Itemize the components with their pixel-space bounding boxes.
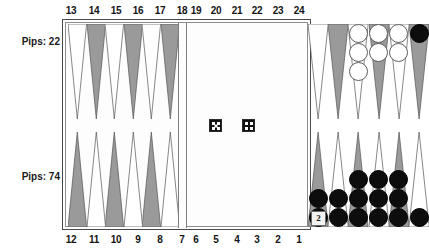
point-number-20: 20 bbox=[207, 4, 225, 18]
checker-black-point-5[interactable] bbox=[329, 189, 348, 208]
die-pip bbox=[245, 122, 248, 125]
point-number-24: 24 bbox=[290, 4, 308, 18]
point-19[interactable] bbox=[308, 24, 328, 119]
point-number-2: 2 bbox=[269, 233, 287, 247]
point-number-14: 14 bbox=[85, 4, 103, 18]
checker-black-point-6[interactable] bbox=[309, 189, 328, 208]
die-2[interactable] bbox=[242, 119, 255, 132]
point-number-3: 3 bbox=[248, 233, 266, 247]
point-number-row-bottom: 121110987654321 bbox=[0, 233, 331, 247]
checker-black-point-4[interactable] bbox=[349, 208, 368, 227]
point-number-21: 21 bbox=[228, 4, 246, 18]
point-number-16: 16 bbox=[129, 4, 147, 18]
point-number-12: 12 bbox=[62, 233, 80, 247]
point-14[interactable] bbox=[87, 24, 106, 119]
point-number-6: 6 bbox=[187, 233, 205, 247]
point-15[interactable] bbox=[105, 24, 124, 119]
die-pip bbox=[250, 122, 253, 125]
point-number-5: 5 bbox=[207, 233, 225, 247]
point-number-17: 17 bbox=[151, 4, 169, 18]
quadrant-bottom-right bbox=[187, 127, 309, 228]
point-number-22: 22 bbox=[248, 4, 266, 18]
point-number-1: 1 bbox=[290, 233, 308, 247]
point-17[interactable] bbox=[142, 24, 161, 119]
point-number-23: 23 bbox=[269, 4, 287, 18]
point-number-8: 8 bbox=[151, 233, 169, 247]
quadrant-top-left bbox=[66, 23, 178, 124]
checker-black-point-4[interactable] bbox=[349, 189, 368, 208]
checker-white-point-21[interactable] bbox=[349, 24, 368, 43]
checker-black-point-5[interactable] bbox=[329, 208, 348, 227]
point-number-4: 4 bbox=[228, 233, 246, 247]
pips-count-bottom: Pips: 74 bbox=[6, 171, 60, 182]
point-number-row-top: 131415161718192021222324 bbox=[0, 4, 331, 18]
point-16[interactable] bbox=[124, 24, 143, 119]
point-18[interactable] bbox=[161, 24, 180, 119]
point-12[interactable] bbox=[68, 132, 87, 227]
die-pip bbox=[245, 127, 248, 130]
die-pip bbox=[250, 127, 253, 130]
quadrant-bottom-left bbox=[66, 127, 178, 228]
die-1[interactable] bbox=[209, 119, 222, 132]
die-pip bbox=[212, 127, 215, 130]
point-number-19: 19 bbox=[187, 4, 205, 18]
checker-white-point-21[interactable] bbox=[349, 62, 368, 81]
checker-black-point-24[interactable] bbox=[410, 24, 429, 43]
board-surface bbox=[65, 22, 308, 227]
checker-white-point-21[interactable] bbox=[349, 43, 368, 62]
point-number-15: 15 bbox=[107, 4, 125, 18]
point-9[interactable] bbox=[124, 132, 143, 227]
point-number-13: 13 bbox=[62, 4, 80, 18]
point-8[interactable] bbox=[142, 132, 161, 227]
point-13[interactable] bbox=[68, 24, 87, 119]
point-number-10: 10 bbox=[107, 233, 125, 247]
point-7[interactable] bbox=[161, 132, 180, 227]
quadrant-top-right bbox=[187, 23, 309, 124]
die-pip bbox=[217, 127, 220, 130]
checker-black-point-4[interactable] bbox=[349, 170, 368, 189]
point-number-9: 9 bbox=[129, 233, 147, 247]
point-20[interactable] bbox=[328, 24, 348, 119]
point-11[interactable] bbox=[87, 132, 106, 227]
pips-count-top: Pips: 22 bbox=[6, 36, 60, 47]
board-frame bbox=[62, 19, 311, 230]
checker-black-point-1[interactable] bbox=[410, 208, 429, 227]
point-number-11: 11 bbox=[85, 233, 103, 247]
center-bar[interactable] bbox=[178, 23, 187, 228]
doubling-cube[interactable]: 2 bbox=[311, 211, 326, 226]
point-10[interactable] bbox=[105, 132, 124, 227]
